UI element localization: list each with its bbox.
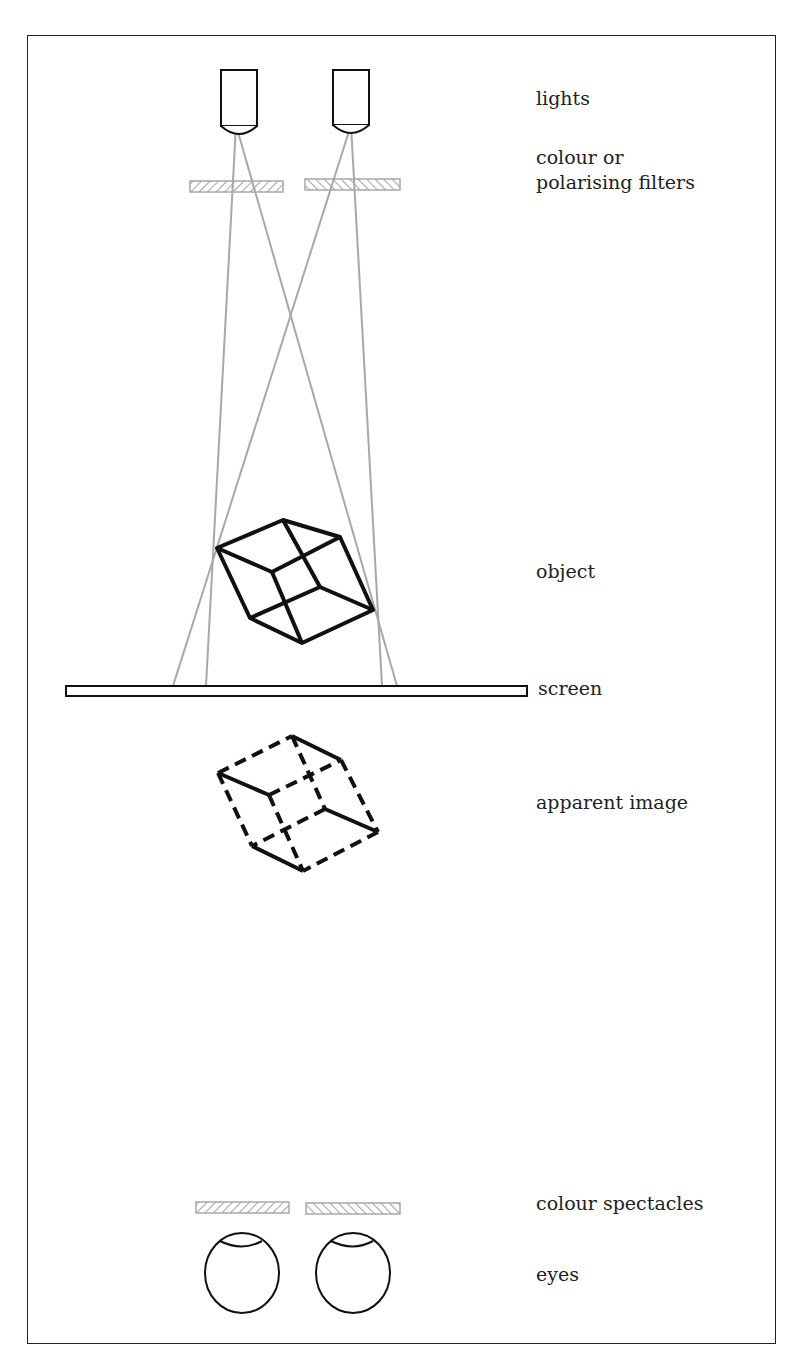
eye-left-icon [205,1233,279,1313]
label-spectacles: colour spectacles [536,1191,703,1215]
label-screen: screen [538,676,602,700]
light-right-icon [333,70,369,133]
label-filters-line1: colour or [536,145,623,169]
eye-right-icon [316,1233,390,1313]
spectacle-right-icon [306,1203,400,1214]
filter-right-icon [305,179,400,190]
ray-left-to-left [206,125,236,686]
spectacle-left-icon [196,1202,289,1213]
screen-bar [66,686,527,696]
apparent-image-cube [218,736,378,871]
label-object: object [536,559,595,583]
ray-right-to-left [173,125,351,686]
label-apparent-image: apparent image [536,790,688,814]
label-filters-line2: polarising filters [536,170,695,194]
stereo-projection-diagram [0,0,796,1369]
ray-left-to-right [236,125,397,686]
label-eyes: eyes [536,1262,579,1286]
label-lights: lights [536,86,590,110]
filter-left-icon [190,181,283,192]
object-cube [217,520,373,643]
light-left-icon [221,70,257,134]
